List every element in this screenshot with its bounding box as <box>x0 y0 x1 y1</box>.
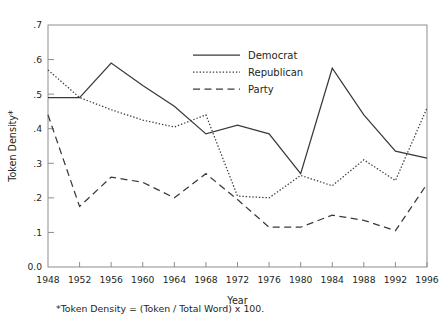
x-tick-label: 1996 <box>415 274 439 285</box>
x-tick-label: 1976 <box>257 274 281 285</box>
legend-label-party: Party <box>248 84 274 95</box>
x-tick-label: 1948 <box>36 274 60 285</box>
series-line-party <box>48 115 427 231</box>
x-tick-label: 1984 <box>321 274 345 285</box>
x-tick-label: 1956 <box>99 274 123 285</box>
legend-label-democrat: Democrat <box>248 50 297 61</box>
x-tick-label: 1992 <box>384 274 407 285</box>
x-tick-label: 1964 <box>163 274 187 285</box>
legend-label-republican: Republican <box>248 67 303 78</box>
y-tick-label: .7 <box>33 19 42 30</box>
y-tick-label: .6 <box>33 54 42 65</box>
x-tick-label: 1960 <box>131 274 155 285</box>
y-tick-label: .3 <box>33 158 42 169</box>
x-tick-label: 1972 <box>226 274 249 285</box>
x-tick-label: 1988 <box>352 274 376 285</box>
y-tick-label: .1 <box>33 227 42 238</box>
x-tick-label: 1968 <box>194 274 218 285</box>
plot-frame <box>48 25 427 267</box>
y-tick-label: .4 <box>33 123 42 134</box>
y-tick-label: .5 <box>33 89 42 100</box>
chart-legend: DemocratRepublicanParty <box>193 50 303 95</box>
x-tick-label: 1952 <box>68 274 91 285</box>
y-axis-title: Token Density* <box>7 110 18 183</box>
x-tick-label: 1980 <box>289 274 313 285</box>
y-tick-label: .2 <box>33 192 42 203</box>
chart-figure: DemocratRepublicanParty 0.0.1.2.3.4.5.6.… <box>0 0 441 326</box>
chart-axes <box>48 25 427 267</box>
y-tick-label: 0.0 <box>27 261 42 272</box>
line-chart: DemocratRepublicanParty 0.0.1.2.3.4.5.6.… <box>0 0 441 326</box>
series-line-republican <box>48 70 427 198</box>
chart-footnote: *Token Density = (Token / Total Word) x … <box>56 303 264 314</box>
chart-series <box>48 63 427 231</box>
series-line-democrat <box>48 63 427 174</box>
